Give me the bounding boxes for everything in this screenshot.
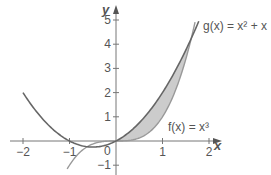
x-tick-label: −1	[63, 145, 77, 159]
y-axis-label: y	[101, 2, 110, 17]
y-tick-label: 3	[104, 61, 111, 75]
g-function-label: g(x) = x² + x	[203, 19, 267, 33]
axes: −2−112−112345	[10, 5, 222, 175]
f-function-label: f(x) = x³	[168, 120, 209, 134]
y-tick-label: 4	[104, 37, 111, 51]
y-axis-arrow-icon	[113, 5, 119, 14]
y-tick-label: 2	[104, 86, 111, 100]
x-axis-label: x	[213, 138, 222, 153]
y-tick-label: −1	[97, 158, 111, 172]
x-tick-label: 1	[159, 145, 166, 159]
y-tick-label: 1	[104, 110, 111, 124]
origin-label: 0	[104, 144, 111, 158]
x-tick-label: 2	[206, 145, 213, 159]
area-between-curves-chart: −2−112−112345 x y 0 g(x) = x² + x f(x) =…	[0, 0, 271, 175]
x-tick-label: −2	[16, 145, 30, 159]
